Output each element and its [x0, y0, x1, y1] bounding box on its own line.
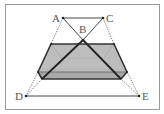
- point-d: [25, 95, 28, 98]
- label-b: B: [79, 23, 86, 35]
- label-e: E: [142, 90, 149, 102]
- point-e: [138, 95, 141, 98]
- geometry-diagram: A B C D E: [0, 0, 164, 114]
- point-b: [82, 39, 85, 42]
- prism-vertex-mr: [126, 71, 128, 73]
- point-a: [62, 17, 65, 20]
- prism-lower-band: [38, 72, 127, 79]
- prism-vertex-tr: [113, 43, 115, 45]
- label-a: A: [52, 12, 60, 24]
- point-c: [102, 17, 105, 20]
- prism-vertex-ml: [37, 71, 39, 73]
- prism-vertex-tl: [50, 43, 52, 45]
- label-d: D: [15, 90, 23, 102]
- label-c: C: [106, 12, 113, 24]
